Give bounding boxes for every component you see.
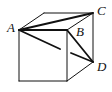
cube-figure: A B C D bbox=[0, 0, 112, 92]
edge-bottom-right bbox=[67, 62, 93, 81]
label-D: D bbox=[96, 59, 107, 74]
label-B: B bbox=[76, 24, 84, 39]
label-A: A bbox=[6, 20, 15, 35]
label-C: C bbox=[97, 3, 106, 18]
segment-AD-part1 bbox=[19, 30, 60, 49]
cube-diagram: A B C D bbox=[0, 0, 112, 92]
